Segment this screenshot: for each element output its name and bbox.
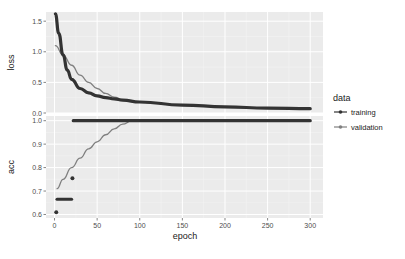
y-tick-label: 1.5: [32, 18, 42, 25]
y-tick-label: 0.9: [32, 141, 42, 148]
y-tick-label: 0.7: [32, 188, 42, 195]
panel-loss: 0.00.51.01.5loss: [6, 12, 323, 117]
y-tick-label: 0.5: [32, 79, 42, 86]
legend: data training validation: [333, 93, 383, 132]
x-tick-label: 50: [93, 222, 101, 229]
x-tick-label: 0: [53, 222, 57, 229]
legend-item-validation: validation: [334, 123, 383, 132]
x-tick-label: 250: [262, 222, 274, 229]
y-tick-label: 0.6: [32, 211, 42, 218]
x-tick-label: 100: [134, 222, 146, 229]
panel-acc: 0.60.70.80.91.0acc: [6, 116, 323, 218]
y-tick-label: 1.0: [32, 48, 42, 55]
legend-title: data: [333, 93, 351, 103]
x-tick-label: 150: [177, 222, 189, 229]
faceted-line-chart: 0.00.51.01.5loss0.60.70.80.91.0acc 05010…: [0, 0, 405, 259]
x-axis-label: epoch: [173, 231, 198, 241]
y-axis-label-loss: loss: [6, 54, 16, 71]
legend-label-validation: validation: [351, 123, 383, 132]
x-tick-label: 300: [304, 222, 316, 229]
y-axis-label-acc: acc: [6, 160, 16, 175]
y-tick-label: 0.0: [32, 110, 42, 117]
legend-item-training: training: [334, 108, 376, 117]
y-tick-label: 0.8: [32, 164, 42, 171]
x-axis: 050100150200250300: [53, 218, 317, 229]
y-tick-label: 1.0: [32, 117, 42, 124]
x-tick-label: 200: [219, 222, 231, 229]
legend-label-training: training: [351, 108, 376, 117]
